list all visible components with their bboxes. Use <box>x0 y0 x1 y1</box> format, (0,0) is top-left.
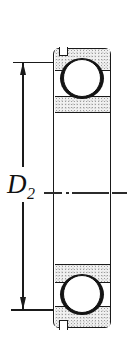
ball-top <box>63 59 101 97</box>
dimension-label-main: D <box>7 169 27 199</box>
dimension-line-upper <box>22 63 23 168</box>
center-line-dash <box>112 192 127 193</box>
dimension-line-lower <box>22 202 23 309</box>
inner-ring-top-section <box>55 96 110 113</box>
dimension-label-subscript: 2 <box>27 185 35 202</box>
dimension-label: D2 <box>7 171 35 198</box>
ball-bottom <box>63 275 101 313</box>
extension-line-bottom <box>11 309 53 310</box>
dimension-arrow-up-icon <box>20 62 26 75</box>
center-line-dash <box>44 192 62 193</box>
center-line-dash <box>72 192 110 193</box>
dimension-arrow-down-icon <box>20 297 26 310</box>
bearing-diagram: D2 <box>0 0 140 361</box>
snap-ring-groove-bottom <box>59 320 69 330</box>
center-line-dot <box>66 192 69 193</box>
snap-ring-groove-top <box>59 47 69 56</box>
